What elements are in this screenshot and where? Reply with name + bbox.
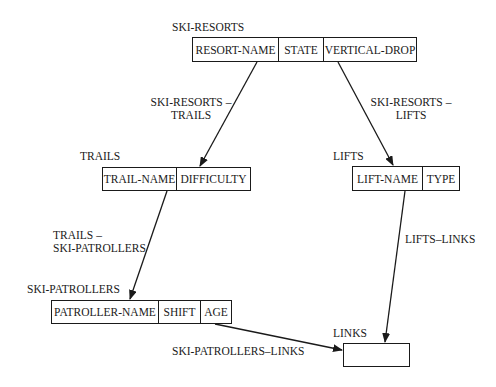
set-label-ski-resorts-lifts: SKI-RESORTS – LIFTS [366, 96, 456, 122]
record-ski-resorts: RESORT-NAME STATE VERTICAL-DROP [192, 37, 417, 62]
record-links [343, 343, 410, 367]
field-age: AGE [200, 301, 231, 323]
field-lift-name: LIFT-NAME [353, 167, 422, 190]
field-trail-name: TRAIL-NAME [103, 168, 176, 190]
record-title-lifts: LIFTS [333, 150, 364, 163]
set-label-line1: SKI-RESORTS – [146, 96, 236, 109]
set-label-ski-patrollers-links: SKI-PATROLLERS–LINKS [172, 345, 304, 358]
field-vertical-drop: VERTICAL-DROP [323, 38, 416, 61]
set-label-ski-resorts-trails: SKI-RESORTS – TRAILS [146, 96, 236, 122]
set-label-line1: SKI-RESORTS – [366, 96, 456, 109]
record-title-ski-patrollers: SKI-PATROLLERS [27, 283, 120, 296]
record-ski-patrollers: PATROLLER-NAME SHIFT AGE [51, 300, 232, 324]
set-label-trails-ski-patrollers: TRAILS – SKI-PATROLLERS [53, 229, 146, 255]
arrow-lifts-links [385, 191, 405, 342]
field-resort-name: RESORT-NAME [193, 38, 278, 61]
field-difficulty: DIFFICULTY [176, 168, 250, 190]
set-label-lifts-links: LIFTS–LINKS [405, 233, 475, 246]
field-patroller-name: PATROLLER-NAME [52, 301, 158, 323]
field-state: STATE [278, 38, 323, 61]
set-label-line2: LIFTS [366, 109, 456, 122]
set-label-line1: TRAILS – [53, 229, 146, 242]
record-title-links: LINKS [333, 327, 367, 340]
record-title-trails: TRAILS [80, 150, 120, 163]
set-label-line2: TRAILS [146, 109, 236, 122]
record-lifts: LIFT-NAME TYPE [352, 166, 460, 191]
field-type: TYPE [422, 167, 459, 190]
record-trails: TRAIL-NAME DIFFICULTY [102, 167, 251, 191]
field-shift: SHIFT [158, 301, 200, 323]
set-label-line2: SKI-PATROLLERS [53, 242, 146, 255]
record-title-ski-resorts: SKI-RESORTS [172, 21, 244, 34]
